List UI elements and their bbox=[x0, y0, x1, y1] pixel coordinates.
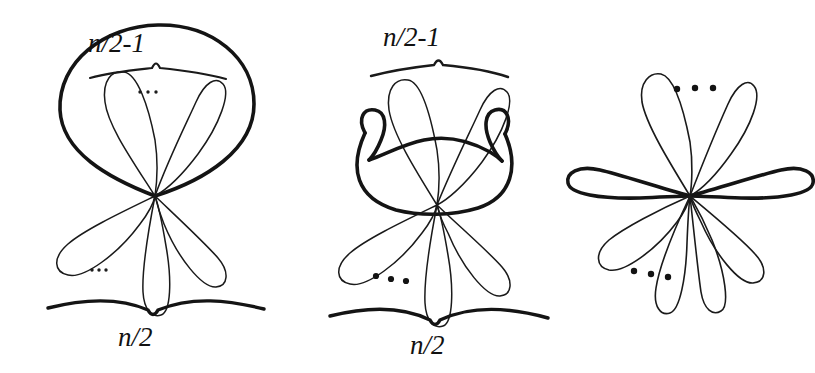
label-left-bottom: n/2 bbox=[118, 322, 153, 353]
label-middle-bottom: n/2 bbox=[410, 330, 445, 361]
ellipsis-left-lower bbox=[90, 268, 107, 271]
label-left-top: n/2-1 bbox=[88, 28, 145, 59]
ellipsis-left-upper bbox=[138, 90, 157, 93]
label-middle-top: n/2-1 bbox=[383, 22, 440, 53]
